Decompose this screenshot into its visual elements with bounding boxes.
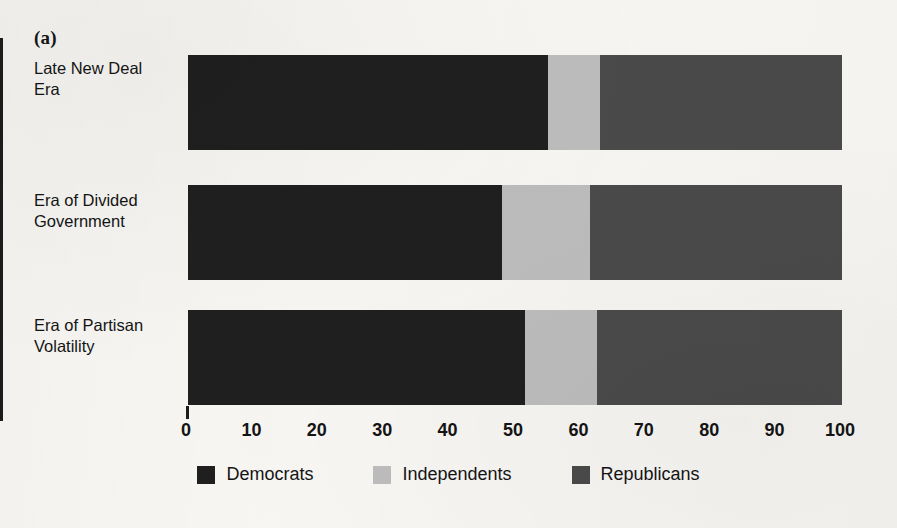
category-label-line1: Late New Deal [34,58,184,79]
legend-swatch-icon [197,466,215,484]
x-axis-tick-label: 50 [503,420,523,441]
x-axis-tick-label: 40 [438,420,458,441]
x-axis-tick-label: 70 [634,420,654,441]
panel-label: (a) [34,27,57,49]
figure-panel: (a) Late New Deal Era Era of Divided Gov… [0,0,897,528]
bar-segment-democrats [188,310,525,405]
legend-item-republicans: Republicans [572,464,700,485]
category-label-line2: Era [34,79,184,100]
bar-segment-republicans [590,185,842,280]
legend-item-democrats: Democrats [197,464,313,485]
category-label-line2: Volatility [34,336,184,357]
bar-segment-independents [502,185,590,280]
category-label-era-of-divided-government: Era of Divided Government [34,190,184,232]
bar-segment-democrats [188,185,502,280]
category-label-line1: Era of Partisan [34,315,184,336]
x-axis-tick-label: 90 [765,420,785,441]
legend: DemocratsIndependentsRepublicans [0,464,897,485]
x-axis-tick-label: 100 [825,420,855,441]
table-row [188,55,842,150]
x-axis-tick-label: 10 [241,420,261,441]
legend-label: Democrats [226,464,313,485]
bar-segment-independents [525,310,597,405]
category-label-line1: Era of Divided [34,190,184,211]
category-label-era-of-partisan-volatility: Era of Partisan Volatility [34,315,184,357]
x-axis-tick-label: 0 [181,420,191,441]
x-axis-tick-label: 30 [372,420,392,441]
table-row [188,310,842,405]
bar-segment-independents [548,55,600,150]
x-axis-origin-tick [186,406,189,419]
x-axis-tick-label: 80 [699,420,719,441]
bar-segment-republicans [597,310,842,405]
x-axis-tick-label: 20 [307,420,327,441]
category-label-late-new-deal-era: Late New Deal Era [34,58,184,100]
bar-segment-democrats [188,55,548,150]
bar-segment-republicans [600,55,842,150]
table-row [188,185,842,280]
category-label-line2: Government [34,211,184,232]
legend-label: Republicans [601,464,700,485]
x-axis-tick-label: 60 [568,420,588,441]
legend-label: Independents [402,464,511,485]
legend-swatch-icon [572,466,590,484]
y-axis-line [0,38,3,421]
legend-swatch-icon [373,466,391,484]
legend-item-independents: Independents [373,464,511,485]
